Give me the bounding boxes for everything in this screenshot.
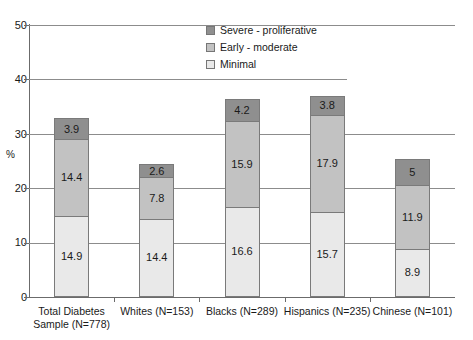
bar-segment-minimal: 16.6 — [225, 207, 260, 297]
bar-segment-severe-proliferative: 3.8 — [310, 96, 345, 117]
bar-segment-early-moderate: 7.8 — [139, 177, 174, 219]
legend-item-severe: Severe - proliferative — [206, 22, 317, 39]
x-axis-label-line: Chinese (N=101) — [362, 305, 463, 318]
bar-segment-value: 14.9 — [61, 251, 82, 262]
bar-segment-minimal: 14.4 — [139, 219, 174, 297]
bar-segment-severe-proliferative: 2.6 — [139, 164, 174, 178]
y-tick-mark-30 — [24, 134, 29, 135]
chart-legend: Severe - proliferative Early - moderate … — [206, 22, 317, 73]
bar-segment-value: 5 — [409, 167, 415, 178]
bar-segment-severe-proliferative: 5 — [395, 159, 430, 186]
bar-segment-minimal: 15.7 — [310, 212, 345, 297]
bar-segment-minimal: 8.9 — [395, 249, 430, 297]
x-tick-3 — [285, 297, 286, 302]
x-tick-1 — [114, 297, 115, 302]
bar-segment-value: 7.8 — [149, 193, 164, 204]
legend-swatch-early-moderate — [206, 43, 215, 52]
bar-5: 511.98.9 — [395, 159, 430, 297]
legend-item-minimal: Minimal — [206, 56, 317, 73]
legend-swatch-minimal — [206, 60, 215, 69]
bar-segment-value: 8.9 — [405, 267, 420, 278]
bar-3: 4.215.916.6 — [225, 99, 260, 297]
legend-swatch-severe — [206, 26, 215, 35]
legend-label-early-moderate: Early - moderate — [220, 42, 298, 53]
bar-segment-early-moderate: 17.9 — [310, 115, 345, 212]
x-tick-2 — [199, 297, 200, 302]
stacked-bar-chart: 50 40 30 20 10 0 % 3.914.414.92.67.814.4… — [0, 0, 473, 340]
gridline-40 — [29, 79, 347, 80]
bar-1: 3.914.414.9 — [54, 118, 89, 297]
legend-label-severe: Severe - proliferative — [220, 25, 317, 36]
legend-label-minimal: Minimal — [220, 59, 256, 70]
bar-segment-value: 2.6 — [149, 166, 164, 177]
bar-segment-minimal: 14.9 — [54, 216, 89, 297]
x-axis-label-5: Chinese (N=101) — [362, 305, 463, 318]
bar-segment-severe-proliferative: 3.9 — [54, 118, 89, 139]
bar-segment-value: 11.9 — [402, 212, 423, 223]
bar-segment-value: 15.9 — [231, 159, 252, 170]
x-axis-line — [29, 297, 455, 298]
bar-segment-value: 17.9 — [316, 158, 337, 169]
bar-segment-value: 14.4 — [61, 172, 82, 183]
bar-segment-early-moderate: 15.9 — [225, 121, 260, 207]
bar-segment-value: 15.7 — [316, 249, 337, 260]
bar-segment-value: 4.2 — [234, 105, 249, 116]
y-tick-mark-40 — [24, 79, 29, 80]
bar-segment-value: 14.4 — [146, 252, 167, 263]
bar-segment-early-moderate: 11.9 — [395, 185, 430, 250]
bar-segment-value: 3.8 — [320, 100, 335, 111]
bar-segment-value: 3.9 — [64, 124, 79, 135]
x-axis-label-line: Sample (N=778) — [21, 318, 122, 331]
y-axis-title: % — [6, 150, 15, 160]
bar-segment-severe-proliferative: 4.2 — [225, 99, 260, 122]
y-tick-mark-20 — [24, 188, 29, 189]
y-tick-mark-0 — [24, 297, 29, 298]
x-tick-4 — [370, 297, 371, 302]
bar-segment-early-moderate: 14.4 — [54, 139, 89, 217]
legend-item-early-moderate: Early - moderate — [206, 39, 317, 56]
bar-segment-value: 16.6 — [231, 246, 252, 257]
y-tick-mark-50 — [24, 25, 29, 26]
bar-4: 3.817.915.7 — [310, 96, 345, 297]
y-tick-mark-10 — [24, 243, 29, 244]
bar-2: 2.67.814.4 — [139, 164, 174, 297]
